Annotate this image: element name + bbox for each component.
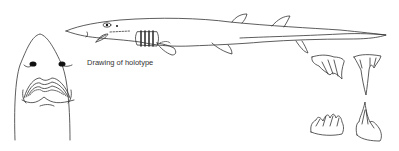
shark-head-ventral-view — [15, 34, 74, 140]
tooth-upper-right — [354, 55, 381, 95]
tooth-lower-left — [311, 114, 344, 135]
tooth-upper-left — [312, 55, 344, 79]
illustration — [0, 0, 399, 151]
tooth-lower-right — [356, 102, 381, 141]
holotype-figure: Drawing of holotype — [0, 0, 399, 151]
figure-caption: Drawing of holotype — [87, 58, 153, 67]
shark-lateral-view — [66, 14, 386, 55]
